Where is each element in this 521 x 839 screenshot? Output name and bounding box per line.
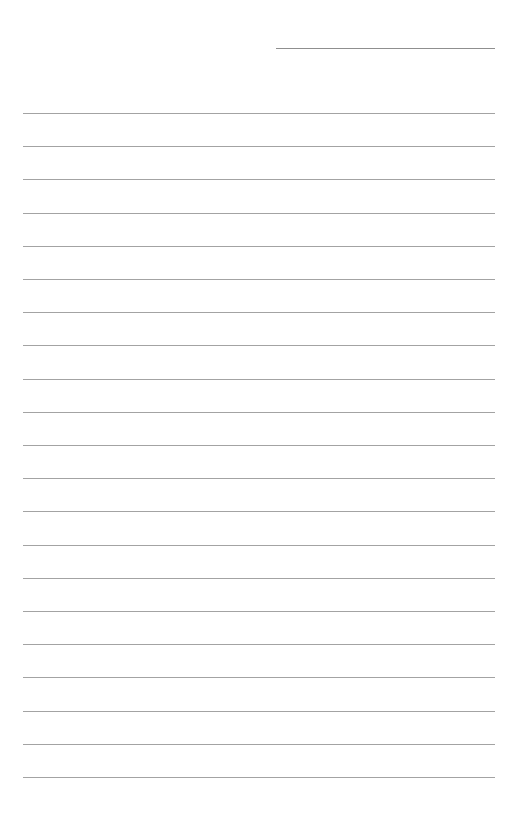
ruled-line <box>23 146 495 147</box>
ruled-line <box>23 246 495 247</box>
ruled-line <box>23 478 495 479</box>
ruled-line <box>23 611 495 612</box>
ruled-line <box>23 213 495 214</box>
ruled-line <box>23 113 495 114</box>
ruled-line <box>23 578 495 579</box>
ruled-line <box>23 644 495 645</box>
header-signature-line <box>276 48 495 49</box>
ruled-line <box>23 445 495 446</box>
ruled-line <box>23 379 495 380</box>
ruled-line <box>23 711 495 712</box>
ruled-line <box>23 511 495 512</box>
ruled-line <box>23 312 495 313</box>
ruled-line <box>23 744 495 745</box>
ruled-line <box>23 179 495 180</box>
ruled-line <box>23 777 495 778</box>
ruled-line <box>23 279 495 280</box>
ruled-line <box>23 545 495 546</box>
ruled-line <box>23 677 495 678</box>
ruled-line <box>23 412 495 413</box>
ruled-line <box>23 345 495 346</box>
